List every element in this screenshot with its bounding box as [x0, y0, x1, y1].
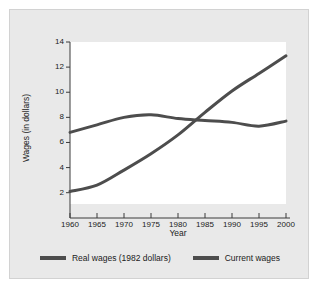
y-tick-label: 12: [40, 63, 64, 71]
figure: 2468101214 19601965197019751980198519901…: [0, 0, 318, 288]
current-wages-line: [70, 115, 286, 133]
y-tick-label: 8: [40, 113, 64, 121]
x-axis-title: Year: [70, 228, 286, 238]
y-tick-marks: [66, 42, 70, 193]
legend-label-real-wages: Real wages (1982 dollars): [72, 253, 171, 263]
chart-legend: Real wages (1982 dollars) Current wages: [10, 253, 310, 263]
y-tick-label: 10: [40, 88, 64, 96]
legend-item-real-wages: Real wages (1982 dollars): [40, 253, 171, 263]
y-tick-label: 2: [40, 189, 64, 197]
y-axis-title: Wages (in dollars): [21, 68, 31, 188]
legend-label-current-wages: Current wages: [225, 253, 280, 263]
y-tick-label: 4: [40, 164, 64, 172]
chart-panel: 2468101214 19601965197019751980198519901…: [9, 9, 309, 279]
axes: [70, 42, 290, 218]
legend-swatch-current-wages: [193, 256, 219, 260]
y-tick-label: 6: [40, 138, 64, 146]
y-tick-label: 14: [40, 38, 64, 46]
legend-item-current-wages: Current wages: [193, 253, 280, 263]
legend-swatch-real-wages: [40, 256, 66, 260]
x-tick-marks: [70, 213, 286, 218]
data-series-group: [70, 56, 286, 192]
